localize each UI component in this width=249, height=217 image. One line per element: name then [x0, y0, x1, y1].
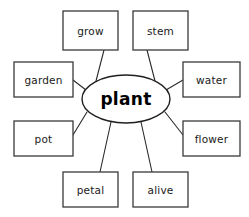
- node-label-pot: pot: [35, 133, 53, 145]
- word-web-canvas: plant grow stem garden water pot: [0, 0, 249, 217]
- node-pot[interactable]: pot: [14, 121, 73, 156]
- node-petal[interactable]: petal: [63, 172, 118, 207]
- spoke-line-stem: [147, 50, 155, 81]
- node-garden[interactable]: garden: [14, 62, 73, 97]
- spoke-line-grow: [96, 50, 104, 81]
- node-stem[interactable]: stem: [133, 11, 188, 50]
- node-flower[interactable]: flower: [183, 121, 240, 156]
- node-label-grow: grow: [77, 25, 104, 37]
- node-label-flower: flower: [195, 133, 229, 145]
- spoke-line-pot: [73, 112, 87, 135]
- node-label-petal: petal: [77, 184, 105, 196]
- word-web-diagram: plant grow stem garden water pot: [0, 0, 249, 217]
- spoke-line-garden: [73, 80, 86, 90]
- node-alive[interactable]: alive: [133, 172, 188, 207]
- spoke-line-alive: [141, 122, 152, 172]
- node-label-alive: alive: [148, 184, 174, 196]
- node-grow[interactable]: grow: [63, 11, 118, 50]
- node-label-garden: garden: [24, 74, 62, 86]
- spoke-line-petal: [100, 122, 111, 172]
- spoke-line-water: [166, 80, 183, 90]
- center-node[interactable]: plant: [82, 75, 170, 123]
- node-label-water: water: [196, 74, 227, 86]
- node-label-stem: stem: [147, 25, 174, 37]
- center-label: plant: [100, 89, 151, 109]
- spoke-line-flower: [165, 112, 183, 135]
- node-water[interactable]: water: [183, 62, 240, 97]
